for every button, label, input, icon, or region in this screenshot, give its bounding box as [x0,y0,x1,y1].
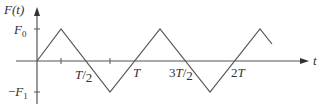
x-tick-label-2T: 2T [231,65,246,80]
x-tick-label-3-half-T: 3T/2 [169,65,193,83]
triangle-wave-diagram: F(t) F0 −F1 t T/2 T 3T/2 2T [0,0,331,109]
y-axis-label: F(t) [3,2,24,17]
f-axis-arrow-icon [34,7,40,16]
t-axis-label: t [313,53,317,68]
x-tick-label-half-T: T/2 [75,67,92,85]
f1-label: −F1 [8,84,28,101]
x-tick-label-T: T [133,65,141,80]
f0-label: F0 [13,22,27,39]
t-axis-arrow-icon [300,58,309,64]
